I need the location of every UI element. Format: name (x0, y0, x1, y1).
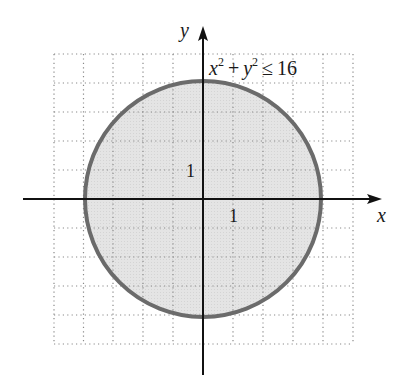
y-axis-label: y (178, 19, 189, 42)
y-tick-label: 1 (186, 161, 195, 181)
graph: x y 1 1 x2+y2≤16 (0, 0, 409, 385)
inequality-label: x2+y2≤16 (208, 55, 297, 80)
axes (23, 26, 382, 375)
x-tick-label: 1 (229, 206, 238, 226)
x-axis-label: x (376, 204, 386, 226)
